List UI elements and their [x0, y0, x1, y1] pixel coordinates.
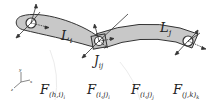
force-label-ij-i: F(i,j)i — [86, 82, 110, 100]
axis-x-label: x — [30, 79, 33, 84]
force-label-jk-k: F(j,k)k — [172, 82, 199, 100]
link-l-j — [96, 24, 198, 48]
link-label-lj: Lj — [159, 20, 172, 37]
coordinate-axes — [14, 72, 30, 88]
kinematic-chain-diagram: y x z Li Lj Jij F(h,i)i F(i,j)i F(i,j)j … — [0, 0, 217, 104]
joint-label: Jij — [91, 54, 104, 70]
axis-z-label: z — [10, 87, 14, 92]
force-label-hi-i: F(h,i)i — [39, 82, 65, 100]
axis-y-label: y — [18, 67, 22, 72]
force-label-ij-j: F(i,j)j — [130, 82, 154, 101]
